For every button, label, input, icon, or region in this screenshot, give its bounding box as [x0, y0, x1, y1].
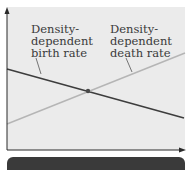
death-rate-label: Density- dependent death rate	[110, 23, 172, 59]
chart: Density- dependent birth rate Density- d…	[0, 0, 187, 155]
equilibrium-point	[86, 89, 90, 93]
birth-rate-label: Density- dependent birth rate	[31, 23, 93, 59]
caption-bar	[7, 157, 185, 170]
